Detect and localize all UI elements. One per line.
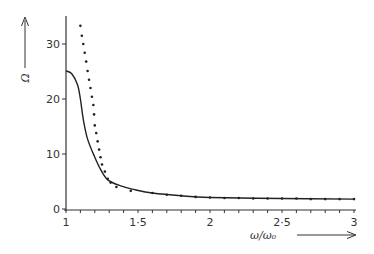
dotted-curve-point [99, 156, 102, 159]
dotted-curve-point [115, 186, 118, 189]
x-tick-label: 1 [63, 216, 70, 229]
dotted-curve-point [338, 198, 341, 201]
dotted-curve-point [324, 198, 327, 201]
y-tick-label: 0 [53, 203, 60, 216]
dotted-curve-point [266, 197, 269, 200]
solid-curve [66, 71, 354, 199]
y-axis-label-group: Ω [19, 17, 32, 84]
dotted-curve-point [194, 196, 197, 199]
dotted-curve-point [209, 196, 212, 199]
dotted-curve-point [151, 192, 154, 195]
dotted-curve-point [88, 78, 91, 81]
dotted-curve-point [91, 96, 94, 99]
x-tick-label: 3 [351, 216, 358, 229]
dotted-curve-point [79, 25, 82, 28]
x-tick-label: 1·5 [129, 216, 147, 229]
dotted-curve-point [98, 148, 101, 151]
dotted-curve-point [96, 140, 99, 143]
dotted-curve-point [109, 181, 112, 184]
y-tick-label: 30 [46, 38, 60, 51]
dotted-curve-point [252, 197, 255, 200]
dotted-curve-point [106, 177, 109, 180]
y-tick-label: 20 [46, 93, 60, 106]
dotted-curve-point [86, 70, 89, 73]
dotted-curve-point [104, 170, 107, 173]
x-ticks: 11·522·53 [63, 210, 358, 229]
dotted-curve-point [94, 124, 97, 127]
x-axis-label: ω/ω₀ [250, 229, 277, 242]
dotted-curve-point [310, 198, 313, 201]
axes [64, 16, 356, 211]
dotted-curve-point [353, 198, 356, 201]
dotted-curve-point [281, 197, 284, 200]
y-tick-label: 10 [46, 148, 60, 161]
y-ticks: 0102030 [46, 38, 66, 216]
dotted-curve-point [101, 163, 104, 166]
dotted-curve-point [89, 87, 92, 90]
dotted-curve-point [92, 104, 95, 107]
dotted-curve-point [81, 34, 84, 37]
chart: 11·522·53 0102030 Ω ω/ω₀ [0, 0, 374, 254]
dotted-curve-point [223, 197, 226, 200]
dotted-curve-point [130, 190, 133, 193]
x-tick-label: 2 [207, 216, 214, 229]
x-axis-label-group: ω/ω₀ [250, 229, 356, 242]
dotted-curve-point [295, 197, 298, 200]
dotted-curve-point [85, 60, 88, 63]
x-tick-label: 2·5 [273, 216, 291, 229]
dotted-curve-point [166, 193, 169, 196]
dotted-curve-point [238, 197, 241, 200]
dotted-curve-point [95, 132, 98, 135]
dotted-curve-point [180, 195, 183, 198]
dotted-curve-point [93, 113, 96, 116]
dotted-curve-point [82, 43, 85, 46]
y-axis-label: Ω [19, 73, 32, 83]
dotted-curve-point [83, 52, 86, 55]
series-layer [66, 25, 355, 201]
